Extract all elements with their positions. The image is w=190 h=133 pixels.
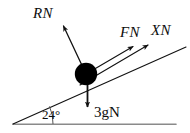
inclined-plane-diagram: RN FN XN 3gN 24° (0, 0, 190, 133)
ball (75, 63, 97, 85)
second-force-label: XN (151, 23, 171, 38)
incline-angle-label: 24° (42, 108, 60, 121)
normal-force-label: RN (33, 6, 53, 21)
applied-force-label: FN (120, 25, 140, 40)
weight-label: 3gN (94, 105, 120, 120)
